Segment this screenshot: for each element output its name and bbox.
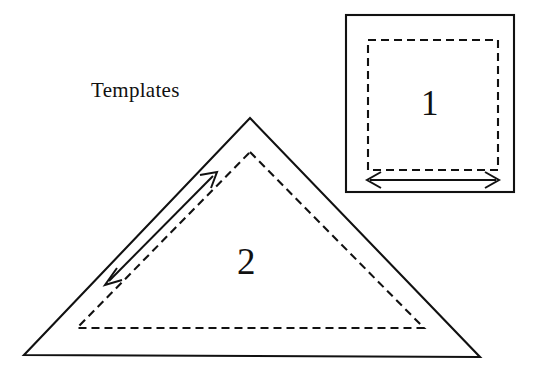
square-dimension-arrow [367,172,499,188]
triangle-dimension-arrow [105,172,217,285]
shape-number-label-2: 2 [237,243,256,280]
figure-canvas: Templates 1 2 [0,0,540,378]
triangle-arrow-shaft [109,176,213,281]
triangle-inner-dashed-outline [77,152,424,328]
templates-diagram [0,0,540,378]
template-2-group [24,118,480,357]
shape-number-label-1: 1 [421,86,439,121]
templates-caption: Templates [91,80,180,101]
